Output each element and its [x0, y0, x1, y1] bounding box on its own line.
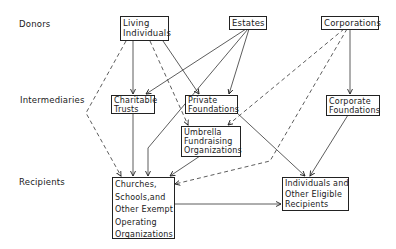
node-living-individuals: Living Individuals — [120, 16, 169, 41]
node-text-line: Foundations — [329, 106, 377, 115]
node-text-line: Organizations — [184, 146, 238, 155]
node-text-line: Fundraising — [184, 137, 238, 146]
arrow-corpfound-to-individuals — [310, 115, 348, 176]
row-label-recipients: Recipients — [19, 177, 65, 187]
arrow-living-to-umbrella-dashed — [150, 41, 188, 125]
node-corporations: Corporations — [321, 16, 379, 30]
arrow-umbrella-to-churches — [170, 156, 200, 176]
node-text-line: Corporate — [329, 97, 377, 106]
node-text-line: Operating — [115, 217, 172, 230]
node-umbrella-fundraising: Umbrella Fundraising Organizations — [181, 126, 241, 157]
node-private-foundations: Private Foundations — [185, 95, 238, 114]
node-text-line: Individuals — [123, 28, 166, 38]
node-text-line: Other Exempt — [115, 204, 172, 217]
node-text-line: Foundations — [188, 106, 235, 115]
node-text-line: Other Eligible — [285, 190, 346, 201]
node-churches-schools: Churches, Schools,and Other Exempt Opera… — [112, 177, 175, 239]
node-text-line: Living — [123, 18, 166, 28]
node-text-line: Corporations — [324, 18, 376, 28]
node-individuals-recipients: Individuals and Other Eligible Recipient… — [282, 177, 349, 211]
node-text-line: Umbrella — [184, 128, 238, 137]
node-charitable-trusts: Charitable Trusts — [111, 95, 155, 114]
node-text-line: Individuals and — [285, 179, 346, 190]
row-label-donors: Donors — [19, 19, 50, 29]
node-text-line: Schools,and — [115, 192, 172, 205]
node-text-line: Recipients — [285, 200, 346, 211]
node-text-line: Estates — [232, 18, 264, 28]
arrow-living-to-private — [163, 41, 199, 94]
arrow-estates-to-private — [229, 29, 249, 94]
node-text-line: Churches, — [115, 179, 172, 192]
row-label-intermediaries: Intermediaries — [20, 95, 85, 105]
node-text-line: Trusts — [114, 106, 152, 115]
connector-arrows — [0, 0, 396, 249]
node-corporate-foundations: Corporate Foundations — [326, 95, 380, 116]
node-text-line: Organizations — [115, 229, 172, 242]
node-estates: Estates — [229, 16, 267, 30]
